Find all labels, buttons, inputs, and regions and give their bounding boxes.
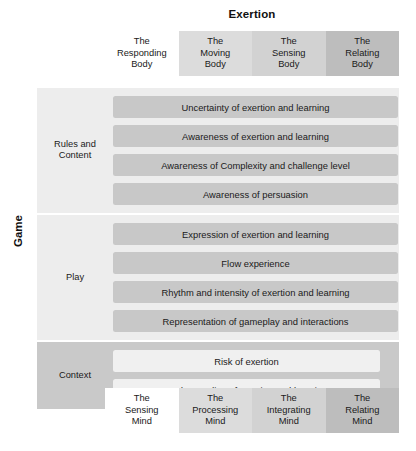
column-header-mind-2-line1: The <box>207 393 223 405</box>
column-header-body-3-line1: The <box>281 36 297 48</box>
column-header-body-1-line3: Body <box>131 59 152 71</box>
left-axis-title: Game <box>12 201 24 261</box>
column-header-mind-4[interactable]: TheRelatingMind <box>326 388 400 433</box>
column-header-mind-2-line2: Processing <box>192 405 238 417</box>
row-group-label-3[interactable]: Context <box>37 370 113 382</box>
column-header-mind-3-line3: Mind <box>279 416 299 428</box>
column-header-mind-1[interactable]: TheSensingMind <box>105 388 179 433</box>
column-header-mind-3[interactable]: TheIntegratingMind <box>252 388 326 433</box>
column-header-body-3[interactable]: TheSensingBody <box>252 31 326 76</box>
theme-bar[interactable]: Flow experience <box>113 252 398 274</box>
framework-diagram: Exertion Game Rules andContentUncertaint… <box>0 0 416 451</box>
column-header-mind-4-line3: Mind <box>352 416 372 428</box>
column-header-row-bottom: TheSensingMindTheProcessingMindTheIntegr… <box>105 388 399 433</box>
column-header-body-4[interactable]: TheRelatingBody <box>326 31 400 76</box>
row-group-label-1-label_line1: Rules and <box>37 139 113 151</box>
column-header-body-2[interactable]: TheMovingBody <box>179 31 253 76</box>
column-header-body-4-line3: Body <box>352 59 373 71</box>
column-header-body-1-line2: Responding <box>117 48 167 60</box>
column-header-mind-1-line3: Mind <box>132 416 152 428</box>
theme-bar[interactable]: Awareness of exertion and learning <box>113 125 398 147</box>
theme-bar[interactable]: Rhythm and intensity of exertion and lea… <box>113 281 398 303</box>
column-header-row-top: TheRespondingBodyTheMovingBodyTheSensing… <box>105 31 399 76</box>
theme-bar[interactable]: Awareness of persuasion <box>113 183 398 205</box>
column-header-mind-3-line2: Integrating <box>267 405 311 417</box>
row-group-label-1[interactable]: Rules andContent <box>37 139 113 162</box>
row-group-label-1-label_line2: Content <box>37 150 113 162</box>
theme-bar[interactable]: Risk of exertion <box>113 350 380 372</box>
row-group-label-2[interactable]: Play <box>37 272 113 284</box>
column-header-body-2-line1: The <box>207 36 223 48</box>
row-group-label-2-label_line1: Play <box>37 272 113 284</box>
column-header-mind-2-line3: Mind <box>205 416 225 428</box>
column-header-mind-1-line1: The <box>134 393 150 405</box>
row-group-label-3-label_line1: Context <box>37 370 113 382</box>
theme-bar[interactable]: Uncertainty of exertion and learning <box>113 96 398 118</box>
column-header-body-1-line1: The <box>134 36 150 48</box>
column-header-mind-1-line2: Sensing <box>125 405 159 417</box>
column-header-body-4-line2: Relating <box>345 48 379 60</box>
column-header-body-4-line1: The <box>354 36 370 48</box>
theme-bar[interactable]: Awareness of Complexity and challenge le… <box>113 154 398 176</box>
column-header-mind-4-line1: The <box>354 393 370 405</box>
column-header-body-3-line2: Sensing <box>272 48 306 60</box>
theme-bar[interactable]: Expression of exertion and learning <box>113 223 398 245</box>
column-header-body-2-line2: Moving <box>200 48 230 60</box>
column-header-body-2-line3: Body <box>205 59 226 71</box>
column-header-body-1[interactable]: TheRespondingBody <box>105 31 179 76</box>
top-axis-title: Exertion <box>105 8 399 20</box>
column-header-mind-4-line2: Relating <box>345 405 379 417</box>
column-header-body-3-line3: Body <box>278 59 299 71</box>
column-header-mind-3-line1: The <box>281 393 297 405</box>
theme-bar[interactable]: Representation of gameplay and interacti… <box>113 310 398 332</box>
column-header-mind-2[interactable]: TheProcessingMind <box>179 388 253 433</box>
